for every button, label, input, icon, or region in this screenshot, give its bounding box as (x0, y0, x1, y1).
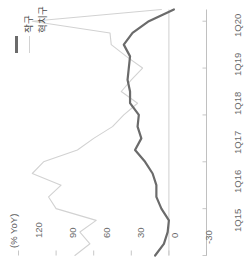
axis-unit-label: (% YoY) (8, 214, 19, 248)
legend-swatch-series-0 (15, 36, 18, 53)
xtick-label-1q18: 1Q18 (232, 92, 243, 115)
xtick-label-1q20: 1Q20 (232, 14, 243, 37)
ytick-label-90: 90 (67, 227, 78, 238)
legend-swatch-series-1 (29, 36, 30, 53)
ytick-label-0: 0 (169, 233, 180, 238)
series-line-혁치구 (32, 9, 161, 255)
ytick-label-30: 30 (135, 227, 146, 238)
series-line-작구 (123, 9, 173, 255)
ytick-label-minus30: -30 (203, 230, 214, 244)
ytick-label-120: 120 (33, 222, 44, 238)
ytick-label-60: 60 (101, 227, 112, 238)
xtick-label-1q16: 1Q16 (232, 170, 243, 193)
legend-label-series-0: 작구 (21, 15, 35, 33)
xtick-label-1q17: 1Q17 (232, 131, 243, 154)
xtick-label-1q19: 1Q19 (232, 53, 243, 76)
xtick-label-1q15: 1Q15 (232, 209, 243, 232)
chart-figure: 120 90 60 30 0 -30 (% YoY) 1Q15 1Q16 1Q1… (0, 0, 251, 265)
legend-label-series-1: 혁치구 (35, 6, 49, 33)
